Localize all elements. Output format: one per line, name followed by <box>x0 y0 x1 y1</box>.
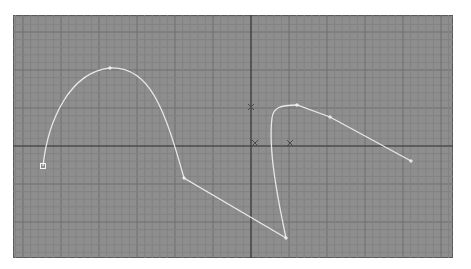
scene-markers <box>248 104 293 146</box>
vertex-handle[interactable] <box>295 103 299 107</box>
transform-gizmo-icon <box>287 140 293 146</box>
origin-marker-icon <box>252 140 258 146</box>
viewport-scene[interactable] <box>0 0 471 269</box>
bezier-spline[interactable] <box>43 68 411 238</box>
grid <box>13 15 453 258</box>
vertex-handle[interactable] <box>108 66 112 70</box>
